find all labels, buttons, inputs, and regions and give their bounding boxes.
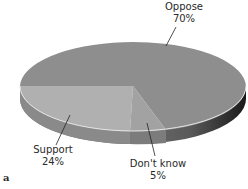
label-oppose-name: Oppose	[160, 1, 208, 13]
label-support-name: Support	[28, 144, 78, 156]
label-support-pct: 24%	[28, 156, 78, 168]
label-oppose-pct: 70%	[160, 13, 208, 25]
label-dont-know-pct: 5%	[128, 170, 188, 182]
leader-oppose	[166, 27, 176, 46]
panel-label: a	[3, 172, 9, 183]
label-oppose: Oppose 70%	[160, 1, 208, 25]
label-dont-know: Don't know 5%	[128, 158, 188, 182]
label-support: Support 24%	[28, 144, 78, 168]
slice-support	[20, 86, 133, 131]
label-dont-know-name: Don't know	[128, 158, 188, 170]
